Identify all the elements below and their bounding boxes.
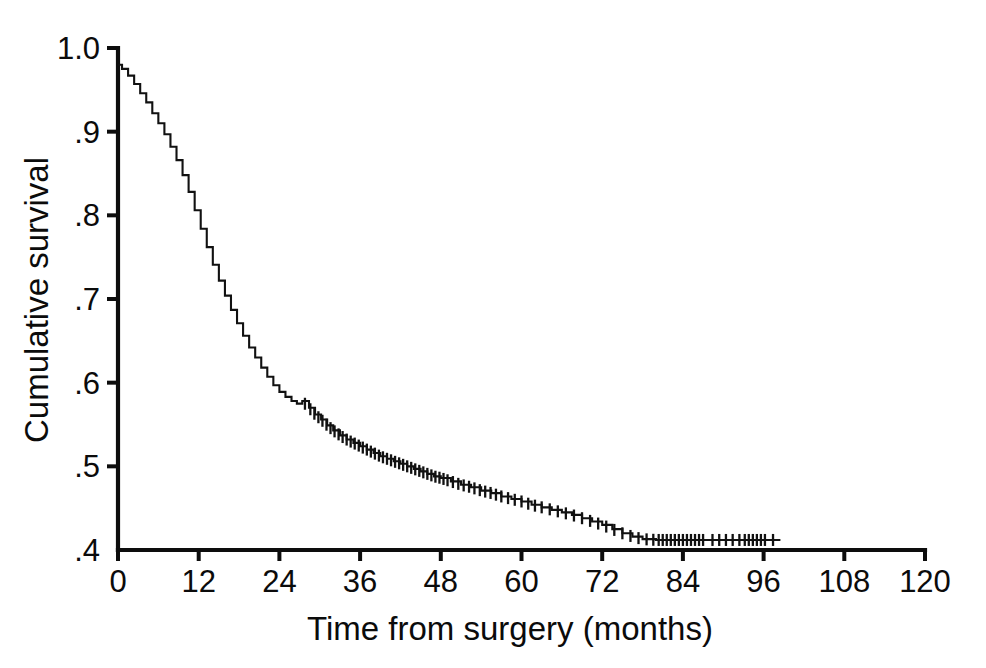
- y-axis-tick-labels: .4.5.6.7.8.91.0: [57, 31, 100, 568]
- x-tick-label: 12: [181, 564, 215, 599]
- x-tick-label: 96: [746, 564, 780, 599]
- x-tick-label: 24: [262, 564, 296, 599]
- x-tick-label: 60: [504, 564, 538, 599]
- y-tick-label: .8: [74, 198, 100, 233]
- x-axis-title: Time from surgery (months): [307, 610, 713, 647]
- kaplan-meier-figure: .4.5.6.7.8.91.0 01224364860728496108120 …: [0, 0, 986, 668]
- y-tick-label: 1.0: [57, 31, 100, 66]
- survival-curve-line: [118, 65, 780, 540]
- survival-chart-canvas: .4.5.6.7.8.91.0 01224364860728496108120 …: [0, 0, 986, 668]
- y-tick-label: .5: [74, 449, 100, 484]
- x-tick-label: 84: [666, 564, 700, 599]
- x-tick-label: 72: [585, 564, 619, 599]
- y-tick-label: .9: [74, 115, 100, 150]
- plot-axes: [118, 48, 925, 550]
- survival-curve-group: [118, 65, 780, 546]
- censoring-marks: [305, 398, 773, 546]
- y-tick-label: .7: [74, 282, 100, 317]
- x-tick-label: 0: [109, 564, 126, 599]
- y-axis-title: Cumulative survival: [18, 157, 55, 443]
- x-tick-label: 36: [343, 564, 377, 599]
- x-tick-label: 120: [899, 564, 951, 599]
- y-tick-label: .6: [74, 366, 100, 401]
- y-tick-label: .4: [74, 533, 100, 568]
- x-axis-tick-labels: 01224364860728496108120: [109, 564, 950, 599]
- x-tick-label: 48: [424, 564, 458, 599]
- x-tick-label: 108: [818, 564, 870, 599]
